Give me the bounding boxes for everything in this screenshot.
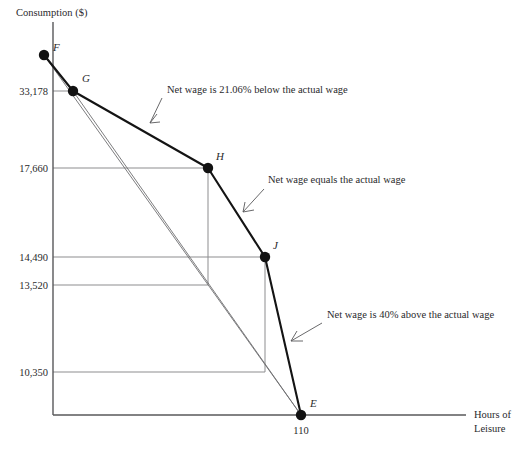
- gridlines-group: [53, 91, 265, 372]
- point-label-J: J: [273, 239, 279, 251]
- arrowhead-below-wage: [150, 114, 160, 123]
- y-tick-14490: 14,490: [19, 252, 48, 263]
- point-marker-F: [39, 50, 49, 60]
- droplines-group: [208, 168, 265, 372]
- annotation-texts: Net wage is 21.06% below the actual wage…: [167, 84, 494, 320]
- point-label-H: H: [215, 150, 225, 162]
- origin-ray-F-E: [44, 55, 301, 415]
- x-axis-title-line2: Leisure: [474, 423, 506, 434]
- point-marker-E: [296, 410, 306, 420]
- point-marker-G: [68, 86, 78, 96]
- y-tick-10350: 10,350: [19, 367, 48, 378]
- leader-line-above-wage: [291, 323, 322, 341]
- point-label-F: F: [52, 41, 60, 53]
- annotation-below-wage: Net wage is 21.06% below the actual wage: [167, 84, 348, 95]
- point-marker-J: [260, 252, 270, 262]
- point-marker-H: [203, 163, 213, 173]
- y-tick-13520: 13,520: [19, 280, 48, 291]
- point-label-G: G: [82, 72, 90, 84]
- x-tick-110: 110: [293, 425, 308, 436]
- y-axis-title: Consumption ($): [16, 7, 88, 19]
- leader-line-below-wage: [150, 98, 162, 123]
- annotation-equal-wage: Net wage equals the actual wage: [268, 174, 406, 185]
- x-axis-title-line1: Hours of: [474, 409, 512, 420]
- data-point-labels: F G H J E: [52, 41, 317, 409]
- y-axis-tick-labels: 33,178 17,660 14,490 13,520 10,350: [19, 86, 48, 378]
- annotation-leaders: [150, 98, 322, 341]
- y-tick-17660: 17,660: [19, 163, 48, 174]
- reference-lines-group: [44, 55, 301, 415]
- annotation-above-wage: Net wage is 40% above the actual wage: [327, 309, 494, 320]
- economics-figure: F G H J E 33,178 17,660 14,490 13,520 10…: [0, 0, 523, 452]
- point-label-E: E: [309, 397, 317, 409]
- leader-line-equal-wage: [243, 189, 264, 212]
- y-tick-33178: 33,178: [19, 86, 48, 97]
- budget-constraint-chart: F G H J E 33,178 17,660 14,490 13,520 10…: [0, 0, 523, 452]
